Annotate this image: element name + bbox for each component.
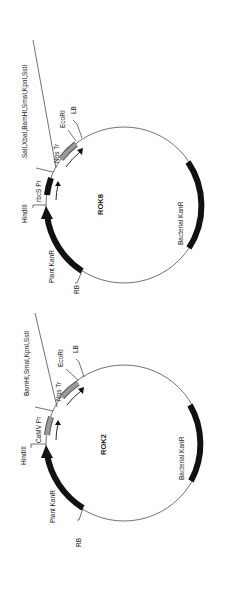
plant-kanr-arrowhead-icon xyxy=(41,445,53,458)
plant-kanr-label: Plant KanR xyxy=(48,250,55,283)
mcs-leader xyxy=(35,407,53,411)
hindiii-label: HindIII xyxy=(21,204,28,223)
promoter-arrow-icon xyxy=(55,420,61,425)
plant-kanr-label: Plant KanR xyxy=(49,490,56,523)
mcs-leader-long xyxy=(35,313,57,407)
promoter-label: rbcS Pr xyxy=(35,179,42,202)
plasmid-map-rok2: ROK2 Plant KanR Bacterial KanR CaMV Pr N… xyxy=(20,313,202,547)
mcs-label: SalI,XbaI,BamHI,SmaI,KpnI,SstI xyxy=(21,65,29,158)
lb-leader xyxy=(76,359,84,377)
ecori-leader xyxy=(66,369,78,380)
plasmid-name-label: ROK8 xyxy=(96,194,105,215)
bacterial-kanr-label: Bacterial KanR xyxy=(177,201,184,245)
rb-label: RB xyxy=(73,285,80,294)
lb-leader xyxy=(73,120,82,138)
promoter-arrow-icon xyxy=(55,181,61,186)
hindiii-label: HindIII xyxy=(20,446,27,465)
plasmid-figure: ROK8 Plant KanR Bacterial KanR rbcS Pr N… xyxy=(0,0,227,592)
promoter-arrow-line xyxy=(56,424,58,440)
mcs-leader xyxy=(36,168,53,172)
ecori-leader xyxy=(68,130,76,141)
rb-leader xyxy=(77,508,83,520)
promoter-arrow-line xyxy=(56,185,58,200)
bacterial-kanr-gene xyxy=(190,405,200,481)
plasmid-name-label: ROK2 xyxy=(99,434,108,455)
terminator-fill xyxy=(61,144,76,159)
rb-label: RB xyxy=(75,538,82,547)
ecori-label: EcoRI xyxy=(59,110,66,128)
lb-label: LB xyxy=(72,345,79,353)
plant-kanr-arrowhead-icon xyxy=(41,206,53,219)
hindiii-leader xyxy=(33,205,46,208)
bacterial-kanr-label: Bacterial KanR xyxy=(178,436,185,480)
bacterial-kanr-gene xyxy=(188,162,201,248)
rb-leader xyxy=(75,271,82,283)
plasmid-map-rok8: ROK8 Plant KanR Bacterial KanR rbcS Pr N… xyxy=(21,40,202,294)
terminator-label: Nos Tr xyxy=(53,143,60,163)
mcs-label: BamHI,SmaI,KpnI,SstI xyxy=(23,331,31,396)
ecori-label: EcoRI xyxy=(57,349,64,367)
promoter-label: CaMV Pr xyxy=(35,416,42,443)
lb-label: LB xyxy=(70,106,77,114)
hindiii-leader xyxy=(31,444,46,448)
terminator-label: Nos Tr xyxy=(55,381,62,401)
promoter-block xyxy=(47,178,51,195)
